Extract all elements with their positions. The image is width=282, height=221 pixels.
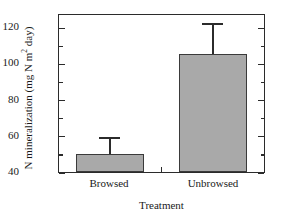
y-tick-major-right xyxy=(258,136,264,137)
y-tick-label: 100 xyxy=(0,57,19,68)
bar-unbrowsed xyxy=(179,54,247,172)
y-tick-major-left xyxy=(59,100,65,101)
y-tick-label: 80 xyxy=(0,94,19,105)
y-axis-title-main: N mineralization (mg N m xyxy=(22,53,34,170)
error-bar-stem-unbrowsed xyxy=(212,24,214,54)
error-bar-cap-browsed xyxy=(99,137,120,139)
y-tick-minor-right xyxy=(261,154,265,155)
y-tick-minor-left xyxy=(59,82,63,83)
y-tick-major-right xyxy=(258,172,264,173)
y-tick-minor-left xyxy=(59,46,63,47)
x-tick-label-browsed: Browsed xyxy=(64,177,154,189)
y-axis-title-superscript: 2 xyxy=(20,49,29,53)
y-tick-minor-right xyxy=(261,82,265,83)
y-tick-major-right xyxy=(258,28,264,29)
y-tick-major-right xyxy=(258,100,264,101)
y-axis-title: N mineralization (mg N m2 day) xyxy=(22,18,34,178)
y-tick-label: 120 xyxy=(0,21,19,32)
y-tick-label: 40 xyxy=(0,166,19,177)
x-axis-title: Treatment xyxy=(58,199,265,211)
y-tick-minor-left xyxy=(59,118,63,119)
y-tick-major-right xyxy=(258,64,264,65)
y-tick-minor-right xyxy=(261,118,265,119)
plot-area xyxy=(58,14,265,173)
error-bar-stem-browsed xyxy=(109,138,111,154)
y-tick-major-left xyxy=(59,136,65,137)
y-tick-major-left xyxy=(59,28,65,29)
x-tick-center xyxy=(161,167,162,172)
y-tick-minor-left xyxy=(59,154,63,155)
y-axis-title-tail: day) xyxy=(22,27,34,49)
error-bar-cap-unbrowsed xyxy=(202,23,223,25)
y-tick-minor-right xyxy=(261,46,265,47)
figure: 120 100 80 60 40 Browsed Unbrowsed N min… xyxy=(0,0,282,221)
x-tick-label-unbrowsed: Unbrowsed xyxy=(168,177,258,189)
bar-browsed xyxy=(76,154,144,172)
y-tick-major-left xyxy=(59,172,65,173)
y-tick-label: 60 xyxy=(0,130,19,141)
y-tick-major-left xyxy=(59,64,65,65)
